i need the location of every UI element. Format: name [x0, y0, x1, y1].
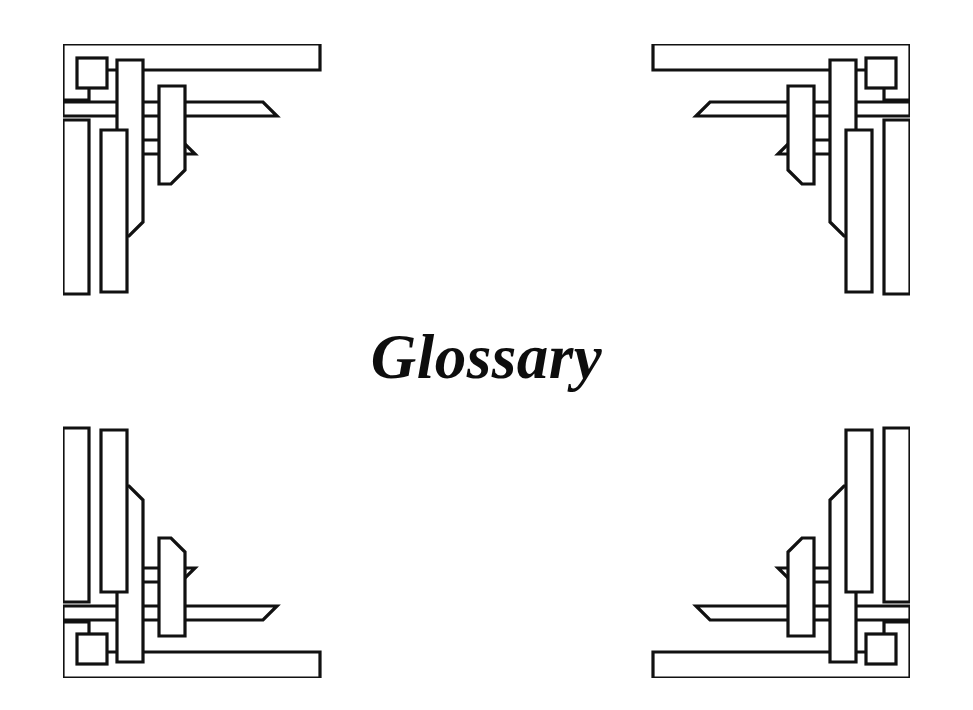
corner-ornament-top-left — [63, 44, 325, 308]
ornament-band-outer-left — [63, 428, 89, 602]
divider-page: Glossary — [0, 0, 973, 710]
ornament-band-inner-vertical — [101, 430, 127, 592]
ornament-square-eye — [866, 58, 896, 88]
ornament-band-inner-vertical — [101, 130, 127, 292]
corner-ornament-top-right — [648, 44, 910, 308]
ornament-square-eye — [866, 634, 896, 664]
ornament-square-eye — [77, 58, 107, 88]
corner-ornament-bottom-left — [63, 414, 325, 678]
page-title: Glossary — [0, 326, 973, 389]
ornament-band-second-vertical — [159, 538, 185, 636]
ornament-band-second-vertical — [788, 86, 814, 184]
ornament-band-inner-vertical — [846, 130, 872, 292]
corner-ornament-bottom-right — [648, 414, 910, 678]
ornament-band-outer-left — [884, 120, 910, 294]
ornament-band-outer-left — [63, 120, 89, 294]
ornament-band-outer-left — [884, 428, 910, 602]
ornament-band-second-vertical — [159, 86, 185, 184]
ornament-band-second-vertical — [788, 538, 814, 636]
ornament-band-inner-vertical — [846, 430, 872, 592]
ornament-square-eye — [77, 634, 107, 664]
